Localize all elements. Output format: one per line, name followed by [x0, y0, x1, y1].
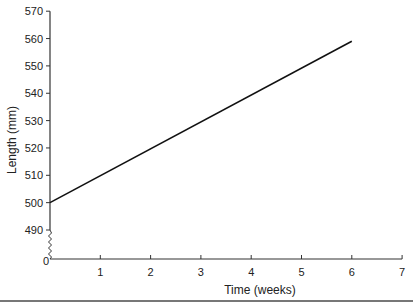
- x-tick-label: 7: [399, 266, 405, 278]
- y-tick-label: 540: [25, 87, 43, 99]
- x-tick-label: 6: [349, 266, 355, 278]
- x-tick-label: 4: [248, 266, 254, 278]
- y-tick-label: 520: [25, 142, 43, 154]
- y-tick-label: 530: [25, 115, 43, 127]
- x-axis-label: Time (weeks): [224, 283, 296, 297]
- x-tick-label: 5: [298, 266, 304, 278]
- axes: [49, 11, 403, 259]
- y-tick-label: 490: [25, 224, 43, 236]
- series-line: [50, 41, 352, 202]
- x-tick-label: 3: [198, 266, 204, 278]
- y-axis-label: Length (mm): [5, 106, 19, 174]
- chart-container: 01234567490500510520530540550560570 Time…: [0, 0, 413, 306]
- y-tick-label: 570: [25, 5, 43, 17]
- x-tick-label: 2: [148, 266, 154, 278]
- y-tick-label: 510: [25, 169, 43, 181]
- divider: [0, 300, 413, 302]
- y-tick-label: 550: [25, 60, 43, 72]
- ticks: 01234567490500510520530540550560570: [25, 5, 406, 278]
- x-tick-label: 0: [43, 255, 49, 267]
- line-chart: 01234567490500510520530540550560570 Time…: [0, 0, 413, 306]
- y-tick-label: 560: [25, 33, 43, 45]
- y-tick-label: 500: [25, 197, 43, 209]
- x-tick-label: 1: [97, 266, 103, 278]
